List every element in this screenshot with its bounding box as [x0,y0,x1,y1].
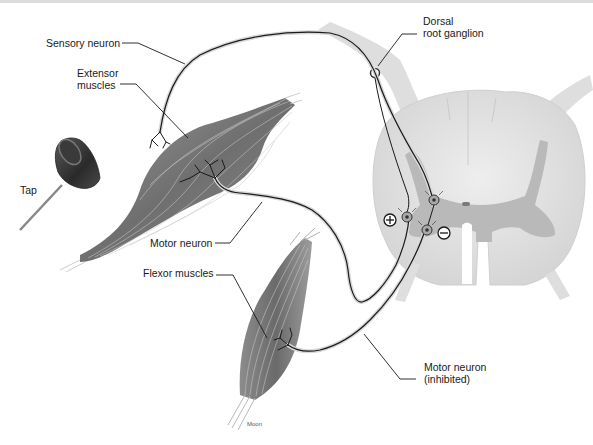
spinal-cord [318,22,593,302]
inhibitory-symbol [438,227,450,239]
central-canal [462,202,470,206]
flexor-muscle [228,228,320,430]
label-motor-neuron-inhibited-2: (inhibited) [424,373,470,385]
label-extensor-muscles-1: Extensor [77,67,118,79]
label-dorsal: Dorsal [423,15,453,27]
interneuron-cell-body [429,195,439,205]
artist-credit: Moon [247,421,262,427]
anterior-fissure [462,223,472,285]
label-motor-neuron: Motor neuron [150,237,212,249]
spinal-cord-body [373,90,585,285]
label-sensory-neuron: Sensory neuron [46,37,120,49]
label-motor-neuron-inhibited-1: Motor neuron [424,361,486,373]
label-flexor-muscles: Flexor muscles [143,267,214,279]
label-tap: Tap [20,184,37,196]
reflex-hammer [20,135,100,230]
label-root-ganglion: root ganglion [423,27,484,39]
motor-neuron-cell-body [402,212,412,222]
excitatory-symbol [384,214,396,226]
label-extensor-muscles-2: muscles [77,79,116,91]
inhibited-motor-neuron-cell-body [422,225,432,235]
